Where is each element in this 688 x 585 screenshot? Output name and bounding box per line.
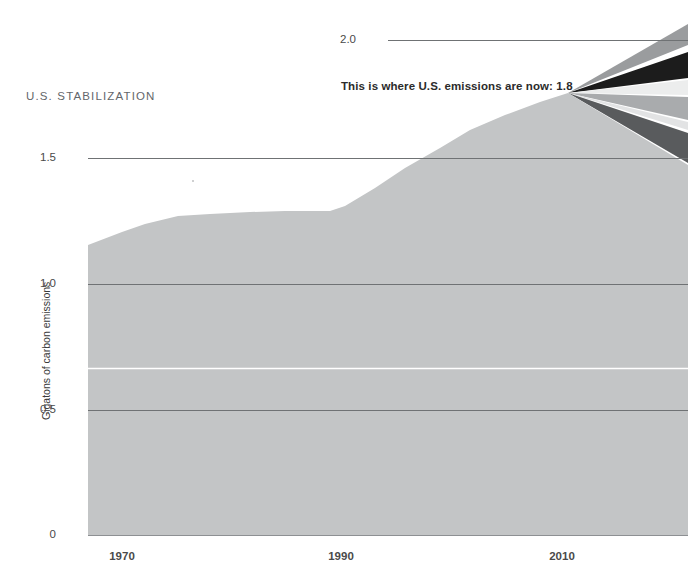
y-tick-2.0: 2.0 xyxy=(316,33,356,45)
projection-wedge-group xyxy=(568,24,688,536)
y-tick-1.0: 1.0 xyxy=(16,277,56,289)
chart-container: U.S. STABILIZATION This is where U.S. em… xyxy=(0,0,688,585)
wedge-historical-fill xyxy=(568,93,688,536)
faint-mark xyxy=(192,180,194,182)
y-tick-0: 0 xyxy=(16,528,56,540)
y-tick-1.5: 1.5 xyxy=(16,151,56,163)
page-title: U.S. STABILIZATION xyxy=(26,90,156,102)
y-axis-label: Gigatons of carbon emissions xyxy=(40,282,52,420)
y-tick-0.5: 0.5 xyxy=(16,403,56,415)
current-emissions-callout: This is where U.S. emissions are now: 1.… xyxy=(341,80,573,92)
x-tick-1990: 1990 xyxy=(311,550,371,562)
x-tick-2010: 2010 xyxy=(532,550,592,562)
historical-area-fill xyxy=(88,93,568,536)
x-tick-1970: 1970 xyxy=(92,550,152,562)
